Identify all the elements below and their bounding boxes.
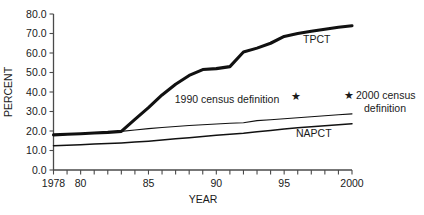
y-tick-label: 30.0 [26, 105, 47, 117]
x-axis-title: YEAR [189, 193, 218, 205]
x-tick-label: 1978 [42, 177, 66, 189]
census-2000-star-icon: ★ [344, 89, 354, 101]
series-label-census-1990-definition: 1990 census definition [175, 93, 280, 105]
y-tick-label: 70.0 [26, 27, 47, 39]
chart-container: 0.010.020.030.040.050.060.070.080.0 1978… [0, 0, 424, 215]
x-tick-label: 85 [143, 177, 155, 189]
y-tick-label: 20.0 [26, 125, 47, 137]
census-2000-note-line1: 2000 census [356, 89, 416, 101]
y-tick-label: 0.0 [32, 164, 47, 176]
y-tick-label: 60.0 [26, 47, 47, 59]
y-tick-label: 10.0 [26, 144, 47, 156]
y-tick-label: 80.0 [26, 8, 47, 20]
y-tick-label: 40.0 [26, 86, 47, 98]
census-1990-star-icon: ★ [291, 90, 301, 102]
y-axis-title: PERCENT [2, 66, 14, 117]
x-tick-label: 2000 [340, 177, 364, 189]
y-axis-tick-labels: 0.010.020.030.040.050.060.070.080.0 [26, 8, 47, 176]
census-2000-note-line2: definition [364, 102, 406, 114]
series-label-napct: NAPCT [296, 127, 332, 139]
x-axis-tick-labels: 1978808590952000 [42, 177, 364, 189]
x-tick-label: 80 [75, 177, 87, 189]
x-tick-label: 90 [210, 177, 222, 189]
y-tick-label: 50.0 [26, 66, 47, 78]
x-tick-label: 95 [278, 177, 290, 189]
x-axis-ticks [54, 170, 353, 175]
series-label-tpct: TPCT [303, 33, 331, 45]
line-chart-svg: 0.010.020.030.040.050.060.070.080.0 1978… [0, 0, 424, 215]
